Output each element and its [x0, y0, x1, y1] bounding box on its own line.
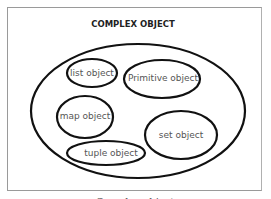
- set-object-label: set object: [159, 130, 204, 140]
- map-object-label: map object: [60, 111, 111, 121]
- tuple-object-label: tuple object: [84, 148, 138, 158]
- diagram-title: COMPLEX OBJECT: [91, 19, 175, 29]
- diagram-caption: Complex object: [96, 196, 175, 199]
- primitive-object-label: Primitive object: [128, 73, 199, 83]
- complex-object-diagram: COMPLEX OBJECT list object Primitive obj…: [0, 0, 271, 199]
- list-object-label: list object: [70, 68, 114, 78]
